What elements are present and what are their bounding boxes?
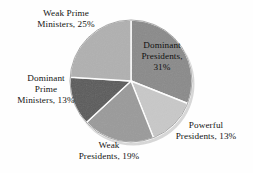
- slice-label-line: Presidents,: [131, 51, 193, 62]
- slice-label-line: Dominant: [131, 40, 193, 51]
- pie-chart-figure: Weak Prime Ministers, 25% Dominant Prime…: [0, 0, 253, 173]
- slice-label-line: Prime: [0, 84, 92, 95]
- slice-label-weak-prime-ministers: Weak Prime Ministers, 25%: [14, 8, 118, 30]
- slice-label-line: 31%: [131, 62, 193, 73]
- slice-label-line: Presidents, 19%: [54, 151, 164, 162]
- slice-label-line: Weak: [54, 140, 164, 151]
- slice-label-weak-presidents: Weak Presidents, 19%: [54, 140, 164, 162]
- slice-label-line: Weak Prime: [14, 8, 118, 19]
- slice-label-line: Powerful: [160, 120, 252, 131]
- slice-label-dominant-prime-ministers: Dominant Prime Ministers, 13%: [0, 73, 92, 106]
- slice-label-line: Ministers, 13%: [0, 95, 92, 106]
- slice-label-line: Ministers, 25%: [14, 19, 118, 30]
- slice-label-powerful-presidents: Powerful Presidents, 13%: [160, 120, 252, 142]
- slice-label-line: Presidents, 13%: [160, 131, 252, 142]
- slice-label-dominant-presidents: Dominant Presidents, 31%: [131, 40, 193, 73]
- slice-label-line: Dominant: [0, 73, 92, 84]
